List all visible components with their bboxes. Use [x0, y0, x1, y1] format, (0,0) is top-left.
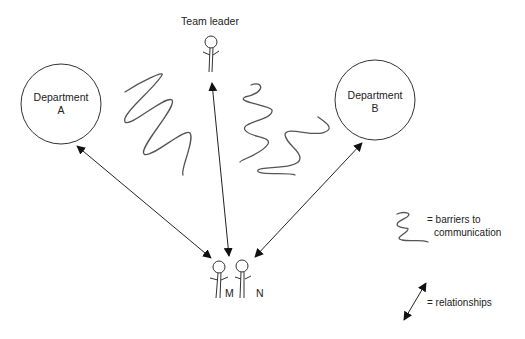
person-n-node: N — [235, 260, 264, 299]
legend-barrier-label-line1: = barriers to — [427, 214, 481, 225]
person-m-node: M — [210, 261, 234, 299]
barrier-squiggle-icon — [125, 74, 192, 175]
legend-relationship-label: = relationships — [427, 297, 492, 308]
department-b-label-line2: B — [371, 102, 378, 114]
person-n-label: N — [256, 287, 264, 299]
department-a-label-line1: Department — [34, 91, 89, 103]
legend: = barriers to communication = relationsh… — [397, 213, 501, 320]
legend-relationship-arrow-icon — [404, 283, 426, 320]
team-leader-stick-figure-icon — [203, 36, 219, 72]
department-a-label-line2: A — [57, 104, 64, 116]
diagram-canvas: Team leader Department A Department B — [0, 0, 525, 339]
department-b-label-line1: Department — [348, 89, 403, 101]
department-b-node: Department B — [335, 60, 415, 140]
barrier-squiggle-icon — [240, 84, 272, 162]
relationship-arrow-dept-b-n — [255, 143, 362, 257]
legend-barrier-label-line2: communication — [434, 227, 501, 238]
relationship-arrow-dept-a-m — [77, 146, 211, 258]
department-a-node: Department A — [21, 64, 101, 144]
team-leader-node: Team leader — [181, 15, 239, 72]
team-leader-label: Team leader — [181, 15, 239, 27]
person-n-stick-figure-icon — [235, 260, 251, 298]
barrier-squiggle-icon — [258, 117, 330, 175]
person-m-label: M — [225, 287, 234, 299]
legend-barrier-squiggle-icon — [397, 213, 428, 242]
relationship-arrow-leader-m — [212, 83, 229, 256]
